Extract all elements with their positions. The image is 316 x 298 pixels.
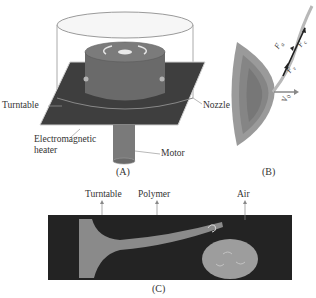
panel-a-caption: (A) (116, 166, 130, 177)
heater-label-line1: Electromagnetic (34, 134, 96, 145)
motor-label: Motor (161, 148, 185, 158)
experiment-photo (48, 200, 292, 280)
heater-label: Electromagnetic heater (34, 134, 96, 156)
force-diagram (232, 6, 313, 146)
polymer-label: Polymer (138, 189, 170, 199)
photo-turntable-label: Turntable (85, 189, 122, 199)
panel-b-caption: (B) (262, 166, 275, 177)
air-label: Air (237, 189, 250, 199)
panel-c-caption: (C) (152, 283, 165, 294)
heater-label-line2: heater (34, 145, 96, 156)
nozzle-label: Nozzle (203, 100, 230, 110)
turntable-label: Turntable (2, 100, 39, 110)
